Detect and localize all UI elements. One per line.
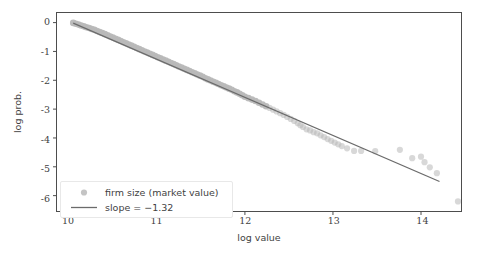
chart-legend: firm size (market value) slope = −1.32 [61, 182, 233, 218]
scatter-point [339, 143, 345, 149]
legend-label-scatter: firm size (market value) [105, 187, 219, 198]
y-tick-label-0: 0 [44, 16, 50, 27]
y-tick-label-neg5: -5 [41, 163, 50, 174]
legend-label-slope: slope = −1.32 [105, 202, 173, 213]
scatter-point [427, 164, 433, 170]
y-tick-label-neg3: -3 [41, 104, 50, 115]
scatter-point [397, 147, 403, 153]
legend-marker-scatter-icon [81, 189, 87, 195]
x-tick-label-12: 12 [239, 215, 251, 226]
y-tick-label-neg4: -4 [41, 134, 50, 145]
x-tick-label-14: 14 [416, 215, 428, 226]
scatter-point [351, 148, 357, 154]
x-tick-label-13: 13 [328, 215, 340, 226]
y-tick-label-neg2: -2 [41, 75, 50, 86]
y-tick-label-neg1: -1 [41, 46, 50, 57]
scatter-point [409, 155, 415, 161]
scatter-point [418, 154, 424, 160]
scatter-point [344, 145, 350, 151]
y-axis-title: log prob. [12, 91, 23, 133]
scatter-point [421, 159, 427, 165]
x-axis-title: log value [237, 232, 281, 243]
scatter-point [434, 170, 440, 176]
y-tick-label-neg6: -6 [41, 193, 50, 204]
chart-figure: 10 11 12 13 14 0 -1 -2 -3 -4 -5 -6 log v… [0, 0, 492, 275]
scatter-point [455, 198, 461, 204]
